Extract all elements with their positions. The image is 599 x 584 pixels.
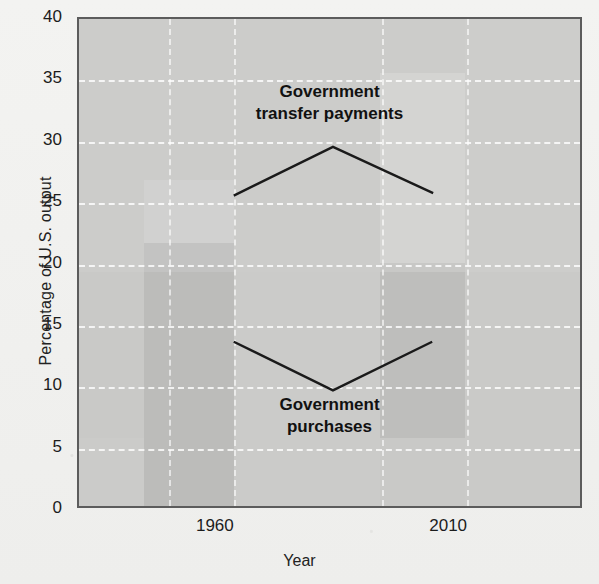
y-tick-0: 0 [53,498,62,518]
purchases-label-line1: Government [279,395,379,414]
y-tick-35: 35 [43,68,62,88]
x-tick-2010: 2010 [429,516,467,536]
y-tick-5: 5 [53,437,62,457]
y-tick-30: 30 [43,130,62,150]
transfer-label-line2: transfer payments [256,104,403,123]
y-tick-20: 20 [43,253,62,273]
series-line-government-purchases [234,342,432,391]
transfer-label-line1: Government [279,82,379,101]
plot-area: Government transfer payments Government … [77,17,582,508]
y-tick-40: 40 [43,7,62,27]
series-line-transfer-payments [234,147,433,196]
x-axis-title: Year [0,552,599,570]
series-label-transfer-payments: Government transfer payments [79,81,580,125]
series-label-government-purchases: Government purchases [79,394,580,438]
y-tick-10: 10 [43,375,62,395]
y-tick-25: 25 [43,191,62,211]
x-axis-tick-labels: 19602010 [0,516,599,542]
x-tick-1960: 1960 [196,516,234,536]
y-axis-tick-labels: 0510152025303540 [0,0,70,584]
y-tick-15: 15 [43,314,62,334]
purchases-label-line2: purchases [287,417,372,436]
